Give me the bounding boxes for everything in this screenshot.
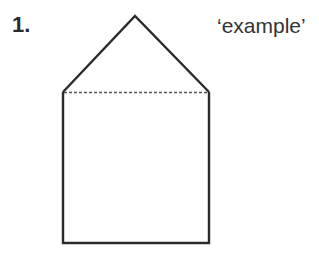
roof-outline [63,16,209,92]
body-outline [63,92,209,243]
house-shape-figure [0,0,319,253]
